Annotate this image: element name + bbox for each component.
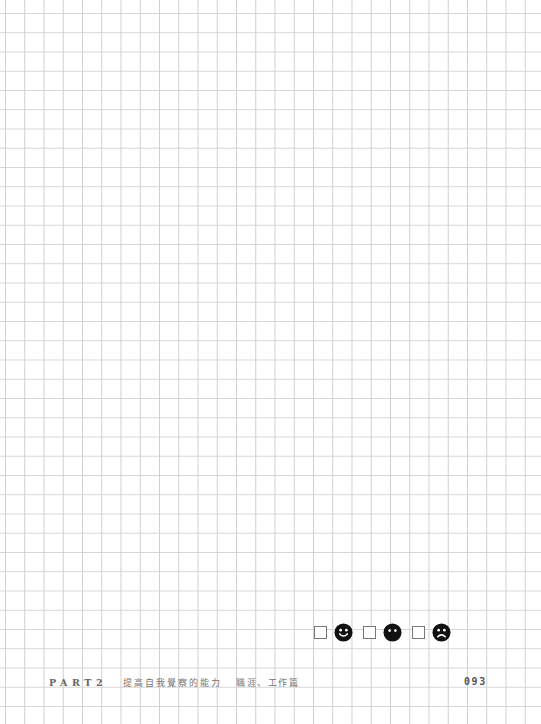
smiley-sad-icon (432, 623, 451, 642)
smiley-happy-icon (334, 623, 353, 642)
mood-option-happy[interactable] (314, 623, 353, 642)
checkbox-sad[interactable] (412, 626, 425, 639)
mood-check-row (314, 622, 461, 642)
part-label: PART2 (49, 677, 107, 688)
checkbox-neutral[interactable] (363, 626, 376, 639)
grid-page (0, 0, 541, 724)
mood-option-neutral[interactable] (363, 623, 402, 642)
smiley-neutral-icon (383, 623, 402, 642)
mood-option-sad[interactable] (412, 623, 451, 642)
chapter-title: 提高自我覺察的能力 (123, 676, 222, 689)
section-title: 職涯、工作篇 (236, 676, 299, 689)
running-footer: PART2 提高自我覺察的能力 職涯、工作篇 (49, 676, 299, 689)
checkbox-happy[interactable] (314, 626, 327, 639)
page-number: 093 (464, 676, 487, 687)
